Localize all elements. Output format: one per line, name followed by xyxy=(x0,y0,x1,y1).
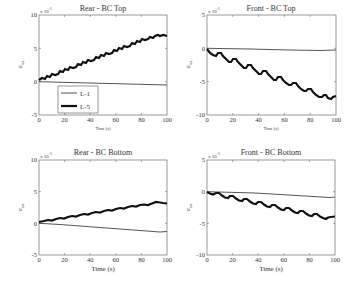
svg-text:60: 60 xyxy=(113,256,120,263)
svg-text:60: 60 xyxy=(281,256,288,263)
y-tick-labels: 5 0 -5 -10 xyxy=(196,156,205,258)
y-tick-labels: 10 5 0 -5 xyxy=(31,156,38,258)
svg-text:0: 0 xyxy=(202,45,205,52)
x-tick-labels: 0 20 40 60 80 100 xyxy=(37,256,172,263)
svg-text:0: 0 xyxy=(205,256,208,263)
panel-front-bc-top: Front - BC Top x 10-3 5 0 -5 -10 0 20 40… xyxy=(184,4,341,131)
svg-text:-5: -5 xyxy=(200,78,205,85)
y-tick-labels: 10 5 0 -5 xyxy=(31,11,38,118)
panel-front-bc-bottom: Front - BC Bottom x 10-3 5 0 -5 -10 0 20… xyxy=(184,148,340,273)
svg-text:-10: -10 xyxy=(196,251,205,258)
svg-text:80: 80 xyxy=(307,116,314,123)
x-ticks xyxy=(39,160,167,255)
svg-text:10: 10 xyxy=(31,11,38,18)
x-axis-label: Time (s) xyxy=(259,265,283,273)
svg-text:80: 80 xyxy=(306,256,313,263)
svg-text:10: 10 xyxy=(31,156,38,163)
series-l5 xyxy=(207,49,336,99)
svg-text:20: 20 xyxy=(229,256,236,263)
svg-text:-5: -5 xyxy=(200,220,205,227)
svg-text:40: 40 xyxy=(87,116,94,123)
x-axis-label: Time (s) xyxy=(263,126,279,131)
svg-text:0: 0 xyxy=(202,188,205,195)
svg-text:5: 5 xyxy=(202,11,205,18)
svg-text:0: 0 xyxy=(34,220,37,227)
axes-box xyxy=(207,15,336,115)
legend-label-l5: L-5 xyxy=(80,103,91,111)
axes-box xyxy=(39,160,167,255)
x-axis-label: Time (s) xyxy=(95,126,111,131)
svg-text:40: 40 xyxy=(87,256,94,263)
y-multiplier: x 10-3 xyxy=(40,7,52,14)
svg-text:40: 40 xyxy=(255,256,262,263)
svg-text:20: 20 xyxy=(61,116,68,123)
panel-title: Rear - BC Top xyxy=(80,4,127,13)
y-multiplier: x 10-3 xyxy=(208,152,220,159)
y-multiplier: x 10-3 xyxy=(208,7,220,14)
x-tick-labels: 0 20 40 60 80 100 xyxy=(205,116,341,123)
svg-text:0: 0 xyxy=(37,256,40,263)
y-axis-label: εxx xyxy=(184,203,193,211)
series-l5 xyxy=(207,192,335,219)
svg-text:100: 100 xyxy=(162,256,172,263)
svg-text:80: 80 xyxy=(138,116,145,123)
y-multiplier: x 10-3 xyxy=(40,152,52,159)
panel-title: Rear - BC Bottom xyxy=(74,148,133,157)
svg-text:80: 80 xyxy=(138,256,145,263)
svg-text:100: 100 xyxy=(330,256,340,263)
legend-box xyxy=(58,86,98,113)
svg-text:0: 0 xyxy=(205,116,208,123)
y-axis-label: εxx xyxy=(16,60,25,68)
x-axis-label: Time (s) xyxy=(91,265,115,273)
svg-text:5: 5 xyxy=(202,156,205,163)
panel-title: Front - BC Bottom xyxy=(241,148,302,157)
x-tick-labels: 0 20 40 60 80 100 xyxy=(205,256,340,263)
legend: L-1 L-5 xyxy=(58,86,98,113)
svg-text:-10: -10 xyxy=(196,111,205,118)
svg-text:60: 60 xyxy=(281,116,288,123)
svg-text:-5: -5 xyxy=(32,111,37,118)
y-tick-labels: 5 0 -5 -10 xyxy=(196,11,205,118)
series-l1 xyxy=(39,223,167,232)
legend-label-l1: L-1 xyxy=(80,90,91,98)
svg-text:5: 5 xyxy=(34,188,37,195)
svg-text:100: 100 xyxy=(331,116,341,123)
x-ticks xyxy=(207,15,336,115)
series-l5 xyxy=(39,202,167,222)
svg-text:0: 0 xyxy=(34,78,37,85)
svg-text:-5: -5 xyxy=(32,251,37,258)
panel-rear-bc-top: Rear - BC Top x 10-3 10 5 0 -5 0 20 40 6… xyxy=(16,4,172,131)
svg-text:20: 20 xyxy=(61,256,68,263)
panel-title: Front - BC Top xyxy=(247,4,296,13)
svg-text:20: 20 xyxy=(230,116,237,123)
svg-text:5: 5 xyxy=(34,45,37,52)
series-l1 xyxy=(39,82,167,85)
x-tick-labels: 0 20 40 60 80 100 xyxy=(37,116,172,123)
svg-text:0: 0 xyxy=(37,116,40,123)
svg-text:40: 40 xyxy=(255,116,262,123)
svg-text:60: 60 xyxy=(113,116,120,123)
series-l5 xyxy=(39,35,167,80)
svg-text:100: 100 xyxy=(162,116,172,123)
panel-rear-bc-bottom: Rear - BC Bottom x 10-3 10 5 0 -5 0 20 4… xyxy=(16,148,172,273)
series-l1 xyxy=(207,48,336,50)
figure: Rear - BC Top x 10-3 10 5 0 -5 0 20 40 6… xyxy=(0,0,361,285)
y-axis-label: εxx xyxy=(16,203,25,211)
y-axis-label: εxx xyxy=(184,60,193,68)
